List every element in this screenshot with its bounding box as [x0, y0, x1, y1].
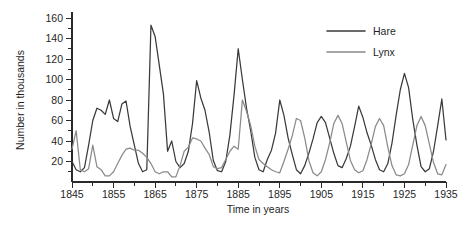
y-tick-label: 120: [45, 53, 63, 65]
x-tick-label: 1865: [143, 188, 167, 200]
x-tick-label: 1855: [102, 188, 126, 200]
y-tick-label: 80: [51, 94, 63, 106]
x-tick-label: 1935: [434, 188, 458, 200]
y-tick-label: 60: [51, 114, 63, 126]
x-tick-label: 1885: [227, 188, 251, 200]
hare-lynx-line-chart: 20406080100120140160 1845185518651875188…: [0, 0, 459, 233]
y-axis-title: Number in thousands: [14, 50, 26, 150]
x-axis: 1845185518651875188518951905191519251935: [60, 182, 458, 200]
chart-svg: 20406080100120140160 1845185518651875188…: [0, 0, 459, 233]
y-tick-label: 160: [45, 12, 63, 24]
x-tick-label: 1845: [60, 188, 84, 200]
y-tick-label: 20: [51, 155, 63, 167]
x-tick-label: 1875: [185, 188, 209, 200]
y-tick-label: 40: [51, 135, 63, 147]
y-axis: 20406080100120140160: [45, 12, 72, 182]
y-tick-label: 100: [45, 73, 63, 85]
legend-label-hare: Hare: [373, 25, 396, 37]
legend-label-lynx: Lynx: [373, 46, 396, 58]
x-axis-title: Time in years: [227, 203, 290, 215]
y-tick-label: 140: [45, 32, 63, 44]
chart-legend: HareLynx: [327, 25, 396, 58]
x-tick-label: 1895: [268, 188, 292, 200]
x-tick-label: 1925: [393, 188, 417, 200]
x-tick-label: 1905: [310, 188, 334, 200]
x-tick-label: 1915: [351, 188, 375, 200]
